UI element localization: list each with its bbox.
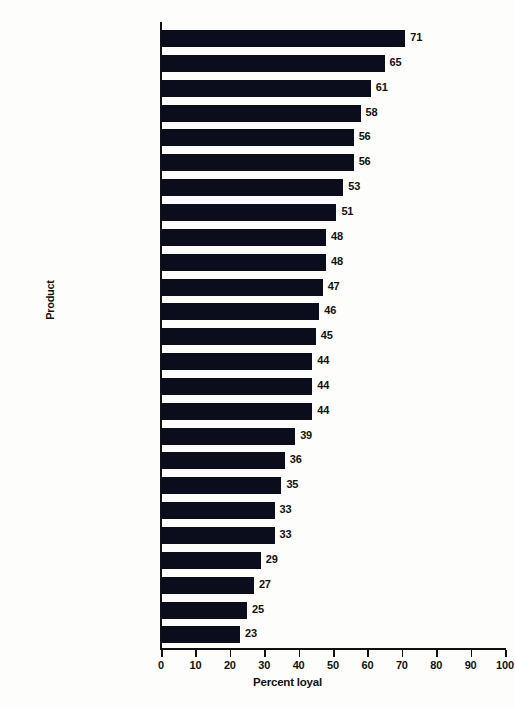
x-axis-title: Percent loyal: [0, 676, 515, 688]
bar-value-label: 65: [390, 56, 402, 68]
bar-row: Garbage bags23: [161, 626, 505, 643]
bar: [161, 502, 275, 519]
bar: [161, 428, 295, 445]
bar-value-label: 44: [317, 354, 329, 366]
bar-value-label: 46: [324, 304, 336, 316]
bar: [161, 55, 385, 72]
bar: [161, 303, 319, 320]
bar-row: Bath soap53: [161, 179, 505, 196]
bar-value-label: 58: [366, 106, 378, 118]
bar: [161, 552, 261, 569]
bar-value-label: 44: [317, 404, 329, 416]
bar-value-label: 29: [266, 553, 278, 565]
bar-row: Headache remedy56: [161, 129, 505, 146]
x-axis-tick-label: 100: [490, 659, 515, 671]
bar: [161, 477, 281, 494]
bar-row: Shampoo44: [161, 353, 505, 370]
plot-area: Cigarettes71Mayonnaise65Toothpaste61Coff…: [161, 24, 505, 648]
bar-value-label: 61: [376, 81, 388, 93]
x-axis-tick-label: 30: [249, 659, 279, 671]
bar-value-label: 36: [290, 453, 302, 465]
bar: [161, 254, 326, 271]
bar: [161, 229, 326, 246]
x-axis-tick: [471, 650, 473, 657]
bar-value-label: 56: [359, 155, 371, 167]
bar: [161, 602, 247, 619]
bar-row: Cigarettes71: [161, 30, 505, 47]
bar: [161, 279, 323, 296]
x-axis-tick: [299, 650, 301, 657]
bar-row: Canned vegetables25: [161, 602, 505, 619]
bar-row: Tuna fish44: [161, 403, 505, 420]
bar-row: Ketchup51: [161, 204, 505, 221]
x-axis-tick: [505, 650, 507, 657]
bar-row: Soft drink44: [161, 378, 505, 395]
bar-value-label: 44: [317, 379, 329, 391]
bar-value-label: 71: [410, 31, 422, 43]
bar-value-label: 53: [348, 180, 360, 192]
x-axis-tick: [436, 650, 438, 657]
bar-value-label: 47: [328, 280, 340, 292]
bar-row: Coffee58: [161, 105, 505, 122]
x-axis-tick: [402, 650, 404, 657]
bar: [161, 353, 312, 370]
bar-value-label: 35: [286, 478, 298, 490]
x-axis-tick-label: 50: [318, 659, 348, 671]
bar-value-label: 45: [321, 329, 333, 341]
bar-value-label: 56: [359, 130, 371, 142]
bar-row: Athletic shoes27: [161, 577, 505, 594]
x-axis-tick: [230, 650, 232, 657]
bar: [161, 626, 240, 643]
x-axis-tick-label: 20: [215, 659, 245, 671]
bar-value-label: 25: [252, 603, 264, 615]
bar: [161, 80, 371, 97]
y-axis-title: Product: [44, 260, 56, 340]
bar-row: Batteries29: [161, 552, 505, 569]
bar-row: Automobile47: [161, 279, 505, 296]
bar-row: Television35: [161, 477, 505, 494]
x-axis-tick: [161, 650, 163, 657]
x-axis-tick-label: 80: [421, 659, 451, 671]
bar: [161, 527, 275, 544]
bar-value-label: 23: [245, 627, 257, 639]
bar-value-label: 39: [300, 429, 312, 441]
bar-row: Mayonnaise65: [161, 55, 505, 72]
bar-value-label: 48: [331, 255, 343, 267]
bar-row: Gasoline39: [161, 428, 505, 445]
x-axis-tick-label: 60: [352, 659, 382, 671]
bar-row: Laundry detergent48: [161, 229, 505, 246]
bar: [161, 577, 254, 594]
bar: [161, 154, 354, 171]
bar: [161, 129, 354, 146]
bar-row: Underwear36: [161, 452, 505, 469]
bar: [161, 204, 336, 221]
bar-row: Toothpaste61: [161, 80, 505, 97]
bar: [161, 30, 405, 47]
bar: [161, 105, 361, 122]
bar-row: Perfume/after shave46: [161, 303, 505, 320]
bar-chart: Product Cigarettes71Mayonnaise65Toothpas…: [0, 0, 515, 708]
bar-value-label: 27: [259, 578, 271, 590]
bar-row: Pet food45: [161, 328, 505, 345]
x-axis-tick-label: 0: [146, 659, 176, 671]
bar-value-label: 51: [341, 205, 353, 217]
x-axis-tick: [195, 650, 197, 657]
bar-row: Film56: [161, 154, 505, 171]
x-axis-tick-label: 90: [456, 659, 486, 671]
bar: [161, 403, 312, 420]
x-axis-tick-label: 70: [387, 659, 417, 671]
x-axis-tick-label: 10: [180, 659, 210, 671]
bar-row: Blue jeans33: [161, 527, 505, 544]
bar: [161, 452, 285, 469]
x-axis-tick: [333, 650, 335, 657]
x-axis-tick: [367, 650, 369, 657]
bar: [161, 179, 343, 196]
x-axis-tick: [264, 650, 266, 657]
bar-row: Tires33: [161, 502, 505, 519]
bar: [161, 378, 312, 395]
x-axis-tick-label: 40: [284, 659, 314, 671]
bar-value-label: 33: [280, 503, 292, 515]
bar: [161, 328, 316, 345]
bar-value-label: 33: [280, 528, 292, 540]
bar-value-label: 48: [331, 230, 343, 242]
